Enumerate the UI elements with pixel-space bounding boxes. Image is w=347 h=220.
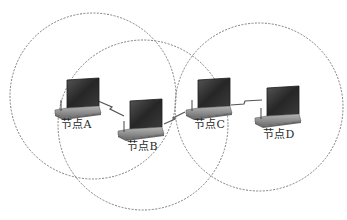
laptop-icon-node-c [186,78,232,120]
node-label-b: 节点B [127,137,158,153]
node-label-c: 节点C [194,115,225,131]
node-label-d: 节点D [263,125,294,141]
laptop-icon-node-d [255,86,301,128]
diagram-graphics [0,0,347,220]
network-diagram: 节点A 节点B 节点C 节点D [0,0,347,220]
node-label-a: 节点A [61,115,92,131]
link-c-d [231,100,262,105]
link-a-b [98,101,124,116]
laptop-icon-node-b [118,99,164,141]
